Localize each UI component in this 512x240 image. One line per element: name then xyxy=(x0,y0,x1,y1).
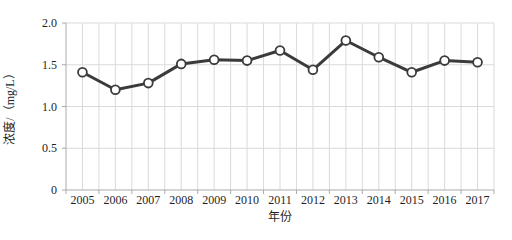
y-tick-label: 0 xyxy=(51,183,57,197)
x-tick-label: 2008 xyxy=(169,193,193,207)
x-tick-label: 2014 xyxy=(367,193,391,207)
x-tick-label: 2016 xyxy=(433,193,457,207)
line-chart: 00.51.01.52.0200520062007200820092010201… xyxy=(0,0,512,240)
data-point-marker xyxy=(243,56,252,65)
x-tick-label: 2013 xyxy=(334,193,358,207)
data-point-marker xyxy=(440,56,449,65)
data-point-marker xyxy=(111,85,120,94)
x-tick-label: 2006 xyxy=(103,193,127,207)
data-point-marker xyxy=(341,36,350,45)
data-point-marker xyxy=(144,79,153,88)
x-tick-label: 2012 xyxy=(301,193,325,207)
x-tick-label: 2010 xyxy=(235,193,259,207)
data-point-marker xyxy=(210,55,219,64)
data-point-marker xyxy=(309,65,318,74)
tick-labels: 00.51.01.52.0200520062007200820092010201… xyxy=(42,16,490,207)
y-tick-label: 1.5 xyxy=(42,58,57,72)
chart-screenshot: 00.51.01.52.0200520062007200820092010201… xyxy=(0,0,512,240)
y-tick-label: 1.0 xyxy=(42,100,57,114)
data-point-marker xyxy=(276,46,285,55)
data-point-marker xyxy=(473,58,482,67)
data-point-marker xyxy=(78,68,87,77)
x-tick-label: 2009 xyxy=(202,193,226,207)
y-axis-title: 浓度/（mg/L） xyxy=(2,67,17,144)
data-point-marker xyxy=(407,68,416,77)
data-point-marker xyxy=(374,53,383,62)
x-axis-title: 年份 xyxy=(268,210,292,224)
x-tick-label: 2007 xyxy=(136,193,160,207)
concentration-line-chart-svg: 00.51.01.52.0200520062007200820092010201… xyxy=(0,0,512,240)
data-point-marker xyxy=(177,60,186,69)
x-tick-label: 2015 xyxy=(400,193,424,207)
x-tick-label: 2017 xyxy=(466,193,490,207)
x-tick-label: 2005 xyxy=(70,193,94,207)
y-tick-label: 0.5 xyxy=(42,141,57,155)
x-tick-label: 2011 xyxy=(268,193,292,207)
y-tick-label: 2.0 xyxy=(42,16,57,30)
